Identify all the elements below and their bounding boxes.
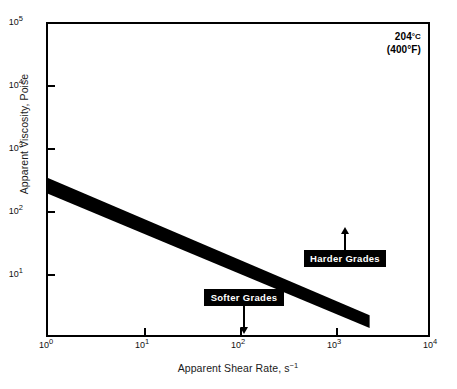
temperature-celsius-line: 204°C [387, 31, 421, 44]
x-tick-label-3: 102 [223, 340, 253, 350]
plot-area: 204°C (400°F) Harder Grades Softer Grade… [46, 22, 430, 337]
y-tick-label-2: 102 [0, 206, 23, 216]
temperature-fahrenheit: (400°F) [387, 44, 421, 57]
y-tick-label-1: 101 [0, 269, 23, 279]
y-tick-label-3: 103 [0, 143, 23, 153]
harder-grades-label: Harder Grades [304, 250, 386, 267]
arrow-stem-up [344, 233, 346, 250]
temperature-annotation: 204°C (400°F) [387, 31, 421, 56]
x-tick-label-1: 100 [31, 340, 61, 350]
softer-grades-callout: Softer Grades [204, 289, 284, 306]
arrow-down-icon [240, 327, 248, 334]
harder-grades-callout: Harder Grades [304, 227, 386, 267]
y-tick-label-4: 104 [0, 80, 23, 90]
softer-grades-label: Softer Grades [204, 289, 284, 306]
y-axis-title-text: Apparent Viscosity, Poise [18, 74, 30, 195]
temperature-celsius-unit: °C [412, 32, 421, 41]
arrow-stem-down [243, 306, 245, 328]
temperature-celsius-value: 204 [395, 31, 412, 42]
x-tick-label-4: 103 [319, 340, 349, 350]
x-axis-title-exponent: −1 [290, 361, 299, 370]
x-tick-label-5: 104 [415, 340, 445, 350]
x-tick-label-2: 101 [127, 340, 157, 350]
x-axis-title-text: Apparent Shear Rate, s [178, 362, 290, 374]
chart-figure: Apparent Viscosity, Poise Apparent Shear… [0, 0, 457, 389]
x-axis-title: Apparent Shear Rate, s−1 [46, 362, 430, 374]
y-tick-label-5: 105 [0, 17, 23, 27]
